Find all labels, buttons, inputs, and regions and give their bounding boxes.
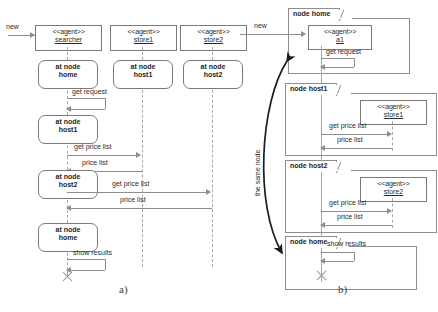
- message-b-get-request-arrow-head: [320, 64, 325, 70]
- message-b-show-results-top: [321, 252, 354, 253]
- state-line2: host1: [39, 126, 97, 134]
- message-b-get-price-list-1-arrow-head: [387, 131, 392, 137]
- diagram-b: node home new <<agent>> a1 get request n…: [240, 0, 438, 312]
- message-b-show-results-label: show results: [327, 240, 366, 247]
- agent-box-store1-name: store1: [361, 111, 426, 118]
- lifeline-head-searcher-stereotype: <<agent>>: [36, 28, 101, 35]
- lifeline-store1-seg2: [142, 85, 143, 267]
- message-b-get-request-top: [321, 58, 354, 59]
- state-line2: home: [39, 71, 97, 79]
- message-b-get-price-list-1-line: [321, 134, 391, 135]
- agent-box-a1-name: a1: [309, 36, 371, 43]
- message-b-price-list-1-line: [321, 148, 392, 149]
- state-searcher-at-node-host2[interactable]: at node host2: [38, 170, 98, 199]
- same-node-label: the same node: [254, 150, 261, 196]
- message-b-price-list-2-label: price list: [337, 213, 363, 220]
- lifeline-head-store2-name: store2: [181, 36, 246, 43]
- message-b-get-price-list-2-arrow-head: [387, 208, 392, 214]
- lifeline-head-store1[interactable]: <<agent>> store1: [110, 25, 177, 51]
- message-b-get-request-bottom: [324, 67, 354, 68]
- message-b-price-list-2-arrow-head: [320, 222, 325, 228]
- diagram-a: new <<agent>> searcher <<agent>> store1 …: [0, 0, 260, 300]
- message-get-price-list-1-label: get price list: [74, 143, 111, 150]
- destruction-x-icon-b: [315, 270, 327, 282]
- same-node-arrow: [240, 55, 300, 265]
- message-b-get-price-list-2-line: [321, 211, 391, 212]
- message-get-price-list-2-arrow-head: [206, 189, 211, 195]
- agent-box-store1-stereotype: <<agent>>: [361, 103, 426, 110]
- package-node-home-1-tab-mask: [289, 18, 352, 19]
- state-line2: host2: [184, 71, 242, 79]
- lifeline-store1: [142, 47, 143, 60]
- state-store1-at-node-host1[interactable]: at node host1: [113, 60, 173, 89]
- message-get-request-arrow-head: [66, 106, 71, 112]
- lifeline-head-store1-stereotype: <<agent>>: [111, 28, 176, 35]
- message-get-request-right: [105, 98, 106, 109]
- diagram-b-new-label: new: [254, 22, 267, 29]
- message-get-price-list-1-arrow-head: [136, 152, 141, 158]
- state-store2-at-node-host2[interactable]: at node host2: [183, 60, 243, 89]
- lifeline-store2-seg2: [212, 85, 213, 267]
- agent-box-store2[interactable]: <<agent>> store2: [360, 177, 427, 202]
- message-get-request-top: [67, 98, 105, 99]
- message-price-list-2-line: [67, 208, 212, 209]
- message-b-show-results-right: [354, 252, 355, 261]
- lifeline-head-searcher[interactable]: <<agent>> searcher: [35, 25, 102, 51]
- figure-canvas: new <<agent>> searcher <<agent>> store1 …: [0, 0, 438, 312]
- lifeline-searcher: [67, 47, 68, 60]
- lifeline-head-store2[interactable]: <<agent>> store2: [180, 25, 247, 51]
- message-get-request-bottom: [70, 109, 105, 110]
- message-get-price-list-2-line: [67, 192, 210, 193]
- destruction-x-icon: [61, 271, 73, 283]
- message-get-price-list-2-label: get price list: [112, 180, 149, 187]
- message-show-results-right: [105, 259, 106, 270]
- agent-box-store2-name: store2: [361, 188, 426, 195]
- agent-box-store2-stereotype: <<agent>>: [361, 180, 426, 187]
- state-line1: at node: [39, 173, 97, 181]
- message-show-results-top: [67, 259, 105, 260]
- state-searcher-at-node-home-1[interactable]: at node home: [38, 60, 98, 89]
- agent-box-a1-stereotype: <<agent>>: [309, 28, 371, 35]
- state-line2: home: [39, 234, 97, 242]
- lifeline-head-store2-stereotype: <<agent>>: [181, 28, 246, 35]
- state-line2: host2: [39, 181, 97, 189]
- lifeline-store2: [212, 47, 213, 60]
- state-searcher-at-node-host1[interactable]: at node host1: [38, 115, 98, 144]
- caption-a: a): [119, 283, 128, 295]
- lifeline-store2-b: [392, 198, 393, 228]
- message-get-request-label: get request: [72, 88, 107, 95]
- lifeline-head-searcher-name: searcher: [36, 36, 101, 43]
- message-b-price-list-2-line: [321, 225, 392, 226]
- state-line1: at node: [39, 63, 97, 71]
- message-price-list-2-arrow-head: [66, 205, 71, 211]
- state-searcher-at-node-home-2[interactable]: at node home: [38, 223, 98, 252]
- lifeline-head-store1-name: store1: [111, 36, 176, 43]
- message-b-show-results-arrow-head: [320, 258, 325, 264]
- state-line1: at node: [39, 118, 97, 126]
- diagram-b-new-arrow-line: [240, 34, 305, 35]
- message-b-get-request-right: [354, 58, 355, 67]
- lifeline-store1-b: [392, 121, 393, 151]
- state-line1: at node: [114, 63, 172, 71]
- package-node-home-1-title: node home: [293, 10, 330, 17]
- message-b-get-request-label: get request: [326, 48, 361, 55]
- state-line1: at node: [39, 226, 97, 234]
- message-price-list-2-label: price list: [120, 196, 146, 203]
- caption-b: b): [338, 283, 347, 295]
- message-b-price-list-1-arrow-head: [320, 145, 325, 151]
- state-line1: at node: [184, 63, 242, 71]
- diagram-b-new-arrow-head: [301, 31, 306, 37]
- message-show-results-bottom: [70, 270, 105, 271]
- message-price-list-1-label: price list: [82, 159, 108, 166]
- agent-box-store1[interactable]: <<agent>> store1: [360, 100, 427, 125]
- diagram-a-new-label: new: [6, 23, 19, 30]
- message-b-get-price-list-1-label: get price list: [329, 122, 366, 129]
- state-line2: host1: [114, 71, 172, 79]
- message-b-price-list-1-label: price list: [337, 136, 363, 143]
- message-b-show-results-bottom: [324, 261, 354, 262]
- agent-box-a1[interactable]: <<agent>> a1: [308, 25, 372, 50]
- message-show-results-label: show results: [73, 249, 112, 256]
- message-b-get-price-list-2-label: get price list: [329, 199, 366, 206]
- message-get-price-list-1-line: [67, 155, 140, 156]
